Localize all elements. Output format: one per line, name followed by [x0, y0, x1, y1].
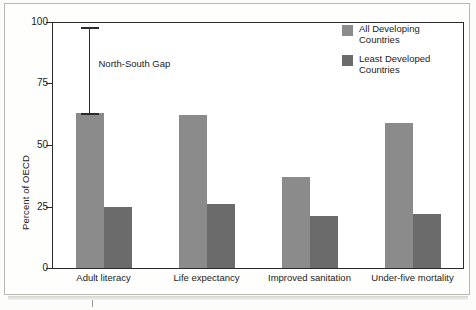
north-south-gap-line	[89, 27, 91, 113]
bar-least-developed-countries-life-expectancy	[207, 204, 235, 268]
legend-label-least-developed-line2: Countries	[359, 65, 430, 76]
north-south-gap-label: North-South Gap	[99, 58, 171, 69]
bar-all-developing-countries-adult-literacy	[76, 113, 104, 268]
legend-label-least-developed-line1: Least Developed	[359, 54, 430, 65]
north-south-gap-bottom-cap	[81, 113, 99, 115]
chart-page: Percent of OECD 100 75 50 25 0 Adult lit…	[0, 0, 476, 310]
bar-all-developing-countries-under-five-mortality	[385, 123, 413, 268]
bar-least-developed-countries-adult-literacy	[104, 207, 132, 269]
legend-swatch-icon-least-developed	[342, 55, 353, 66]
x-axis-label-adult-literacy: Adult literacy	[52, 272, 155, 283]
bar-all-developing-countries-improved-sanitation	[282, 177, 310, 268]
bar-all-developing-countries-life-expectancy	[179, 115, 207, 268]
x-axis-label-improved-sanitation: Improved sanitation	[258, 272, 361, 283]
bar-least-developed-countries-improved-sanitation	[310, 216, 338, 268]
legend-swatch-icon-all-developing	[342, 25, 353, 36]
legend-label-all-developing-line2: Countries	[359, 35, 420, 46]
x-axis-label-under-five-mortality: Under-five mortality	[361, 272, 464, 283]
chart-legend: All Developing Countries Least Developed…	[342, 24, 430, 84]
legend-item-all-developing: All Developing Countries	[342, 24, 430, 45]
legend-label-all-developing-line1: All Developing	[359, 24, 420, 35]
legend-item-least-developed: Least Developed Countries	[342, 54, 430, 75]
x-axis-label-life-expectancy: Life expectancy	[155, 272, 258, 283]
bar-least-developed-countries-under-five-mortality	[413, 214, 441, 268]
